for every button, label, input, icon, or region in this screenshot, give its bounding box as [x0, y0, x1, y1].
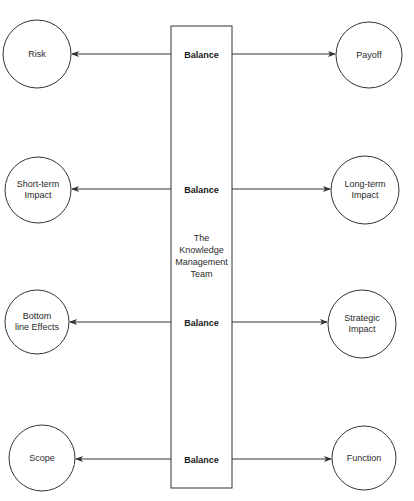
team-label-line-3: Management: [171, 256, 232, 268]
team-label-line-2: Knowledge: [171, 244, 232, 256]
balance-label-risk-payoff: Balance: [171, 50, 232, 60]
balance-label-scope-function: Balance: [171, 455, 232, 465]
balance-label-bottom-line-strategic: Balance: [171, 318, 232, 328]
team-label-line-4: Team: [171, 268, 232, 280]
payoff-node-label: Payoff: [334, 50, 404, 61]
long-term-impact-node-label: Long-term Impact: [330, 179, 400, 201]
bottom-line-effects-node-label: Bottom line Effects: [2, 311, 72, 333]
short-term-impact-node-label: Short-term Impact: [3, 179, 73, 201]
team-label-line-1: The: [171, 232, 232, 244]
balance-label-short-long-term: Balance: [171, 185, 232, 195]
function-node-label: Function: [329, 453, 399, 464]
scope-node-label: Scope: [7, 453, 77, 464]
strategic-impact-node-label: Strategic Impact: [327, 313, 397, 335]
risk-node-label: Risk: [2, 49, 72, 60]
knowledge-management-team-label: The Knowledge Management Team: [171, 232, 232, 280]
